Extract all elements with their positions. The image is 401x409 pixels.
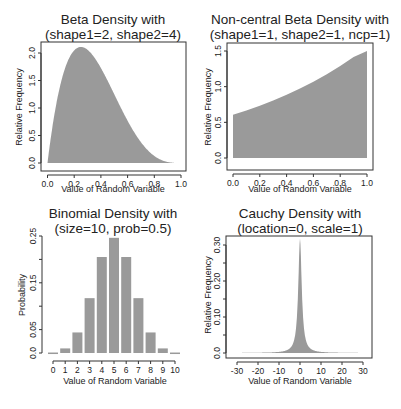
y-axis: 0.00.51.01.5 xyxy=(213,45,227,164)
y-tick-label: 0.25 xyxy=(28,227,38,244)
panel-title: Non-central Beta Density with xyxy=(211,12,389,27)
bar-9 xyxy=(158,348,168,353)
bar-8 xyxy=(146,332,156,353)
panel-subtitle: (shape1=2, shape2=4) xyxy=(45,27,181,42)
x-tick-label: 20 xyxy=(337,366,347,376)
bar-1 xyxy=(60,348,70,353)
x-tick-label: 10 xyxy=(316,366,326,376)
panel-title: Cauchy Density with xyxy=(239,206,361,221)
panel-noncentral-beta: Non-central Beta Density with (shape1=1,… xyxy=(203,12,390,194)
x-tick-label: -20 xyxy=(252,366,265,376)
y-tick-label: 0.5 xyxy=(213,116,223,128)
figure: Beta Density with (shape1=2, shape2=4) 0… xyxy=(0,0,401,409)
x-tick-label: 3 xyxy=(87,365,92,375)
x-axis: 012345678910 xyxy=(51,361,180,375)
y-axis: 0.00.51.01.52.0 xyxy=(27,47,41,169)
panel-cauchy: Cauchy Density with (location=0, scale=1… xyxy=(203,206,372,386)
bar-5 xyxy=(109,238,119,353)
panel-binomial: Binomial Density with (size=10, prob=0.5… xyxy=(17,206,180,386)
x-tick-label: 7 xyxy=(136,365,141,375)
x-tick-label: 1.0 xyxy=(175,179,187,189)
y-tick-label: 0.0 xyxy=(212,347,222,359)
y-tick-label: 0.0 xyxy=(27,157,37,169)
y-tick-label: 0.30 xyxy=(212,236,222,253)
y-tick-label: 0.0 xyxy=(28,347,38,359)
panel-beta: Beta Density with (shape1=2, shape2=4) 0… xyxy=(14,12,187,194)
panel-subtitle: (size=10, prob=0.5) xyxy=(54,221,171,236)
x-tick-label: 6 xyxy=(124,365,129,375)
bars xyxy=(48,238,180,354)
y-axis-label: Relative Frequency xyxy=(14,68,24,146)
density-area xyxy=(48,47,182,163)
y-tick-label: 0.5 xyxy=(27,129,37,141)
y-tick-label: 0.20 xyxy=(212,272,222,289)
y-axis: 0.00.100.200.30 xyxy=(212,236,226,358)
y-tick-label: 0.10 xyxy=(212,308,222,325)
x-tick-label: -30 xyxy=(231,366,244,376)
panel-title: Beta Density with xyxy=(61,12,165,27)
x-tick-label: 10 xyxy=(170,365,180,375)
y-tick-label: 1.5 xyxy=(213,45,223,57)
y-tick-label: 1.0 xyxy=(27,102,37,114)
x-axis-label: Value of Random Variable xyxy=(248,376,352,386)
x-axis-label: Value of Random Variable xyxy=(248,184,352,194)
x-tick-label: 0.0 xyxy=(42,179,54,189)
bar-10 xyxy=(170,353,180,355)
x-axis: -30-20-100102030 xyxy=(231,362,368,376)
x-tick-label: 0.0 xyxy=(227,178,239,188)
panel-title: Binomial Density with xyxy=(49,206,177,221)
y-tick-label: 2.0 xyxy=(27,47,37,59)
bar-0 xyxy=(48,353,58,355)
x-tick-label: 1 xyxy=(63,365,68,375)
y-tick-label: 1.0 xyxy=(213,80,223,92)
panel-subtitle: (shape1=1, shape2=1, ncp=1) xyxy=(210,27,391,42)
x-tick-label: 4 xyxy=(99,365,104,375)
x-tick-label: 30 xyxy=(358,366,368,376)
bar-7 xyxy=(133,298,143,353)
x-tick-label: 8 xyxy=(148,365,153,375)
density-area xyxy=(233,51,367,158)
y-axis-label: Relative Frequency xyxy=(203,68,213,146)
y-tick-label: 0.0 xyxy=(213,152,223,164)
bar-4 xyxy=(97,257,107,353)
y-tick-label: 0.15 xyxy=(28,274,38,291)
x-tick-label: 2 xyxy=(75,365,80,375)
x-axis-label: Value of Random Variable xyxy=(61,184,165,194)
x-tick-label: 9 xyxy=(160,365,165,375)
bar-6 xyxy=(121,257,131,353)
y-tick-label: 0.05 xyxy=(28,321,38,338)
x-tick-label: 0 xyxy=(298,366,303,376)
y-axis-label: Probability xyxy=(17,273,27,316)
x-tick-label: 5 xyxy=(112,365,117,375)
bar-3 xyxy=(85,298,95,353)
density-area xyxy=(233,238,367,353)
x-tick-label: -10 xyxy=(273,366,286,376)
bar-2 xyxy=(72,332,82,353)
x-tick-label: 0 xyxy=(51,365,56,375)
y-tick-label: 1.5 xyxy=(27,74,37,86)
y-axis: 0.00.050.150.25 xyxy=(28,227,42,358)
y-axis-label: Relative Frequency xyxy=(203,256,213,334)
x-axis-label: Value of Random Variable xyxy=(63,376,167,386)
panel-subtitle: (location=0, scale=1) xyxy=(237,221,362,236)
x-tick-label: 1.0 xyxy=(361,178,373,188)
